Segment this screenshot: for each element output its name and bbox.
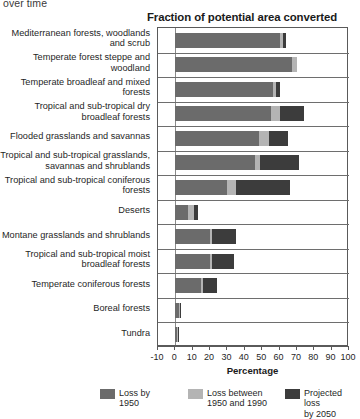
bar-segment[interactable]: [175, 155, 255, 170]
legend-label: Projected loss by 2050: [304, 388, 355, 419]
category-label: Tropical and sub-tropical coniferous for…: [0, 175, 150, 196]
caption-fragment: over time: [3, 0, 47, 9]
legend-item[interactable]: Projected loss by 2050: [285, 388, 355, 419]
legend-label: Loss by 1950: [119, 388, 150, 409]
chart-legend: Loss by 1950Loss between 1950 and 1990Pr…: [100, 388, 354, 412]
row-separator: [158, 322, 349, 323]
row-separator: [158, 249, 349, 250]
row-separator: [158, 200, 349, 201]
legend-item[interactable]: Loss between 1950 and 1990: [188, 388, 268, 409]
bar-segment[interactable]: [260, 155, 298, 170]
bar-segment[interactable]: [236, 180, 290, 195]
bar-group[interactable]: [158, 180, 349, 195]
x-axis-title: Percentage: [157, 365, 348, 376]
bar-segment[interactable]: [175, 229, 210, 244]
bar-group[interactable]: [158, 155, 349, 170]
category-label: Mediterranean forests, woodlands and scr…: [0, 28, 150, 49]
x-tick: [331, 346, 332, 350]
x-tick-label: 100: [335, 352, 360, 362]
x-tick: [226, 346, 227, 350]
legend-swatch: [285, 389, 300, 399]
row-separator: [158, 77, 349, 78]
x-tick: [174, 346, 175, 350]
x-axis-line: [157, 346, 348, 347]
bar-group[interactable]: [158, 82, 349, 97]
bar-segment[interactable]: [227, 180, 236, 195]
bar-segment[interactable]: [180, 303, 181, 318]
bar-segment[interactable]: [212, 229, 236, 244]
category-label: Tropical and sub-tropical grasslands, sa…: [0, 150, 150, 171]
legend-item[interactable]: Loss by 1950: [100, 388, 152, 409]
row-separator: [158, 298, 349, 299]
bar-segment[interactable]: [259, 131, 269, 146]
bar-segment[interactable]: [175, 180, 227, 195]
bar-segment[interactable]: [280, 106, 304, 121]
row-separator: [158, 53, 349, 54]
bar-segment[interactable]: [283, 33, 286, 48]
legend-swatch: [188, 389, 203, 399]
category-label: Tundra: [0, 328, 150, 338]
row-separator: [158, 126, 349, 127]
bar-group[interactable]: [158, 205, 349, 220]
bar-segment[interactable]: [212, 254, 235, 269]
bar-group[interactable]: [158, 278, 349, 293]
legend-swatch: [100, 389, 115, 399]
x-tick: [348, 346, 349, 350]
bar-segment[interactable]: [178, 327, 179, 342]
category-label: Temperate coniferous forests: [0, 279, 150, 289]
category-label: Temperate broadleaf and mixed forests: [0, 77, 150, 98]
bar-group[interactable]: [158, 131, 349, 146]
legend-label: Loss between 1950 and 1990: [207, 388, 267, 409]
category-label: Montane grasslands and shrublands: [0, 230, 150, 240]
bar-group[interactable]: [158, 229, 349, 244]
x-tick: [313, 346, 314, 350]
bar-group[interactable]: [158, 57, 349, 72]
bar-segment[interactable]: [175, 82, 272, 97]
x-tick: [261, 346, 262, 350]
chart-title: Fraction of potential area converted: [132, 11, 352, 23]
bar-segment[interactable]: [271, 106, 280, 121]
bar-segment[interactable]: [175, 131, 258, 146]
bar-segment[interactable]: [175, 205, 187, 220]
row-separator: [158, 102, 349, 103]
bar-group[interactable]: [158, 303, 349, 318]
bar-segment[interactable]: [276, 82, 279, 97]
bar-segment[interactable]: [175, 57, 291, 72]
row-separator: [158, 151, 349, 152]
category-label: Temperate forest steppe and woodland: [0, 52, 150, 73]
x-tick: [296, 346, 297, 350]
bar-segment[interactable]: [194, 205, 197, 220]
bar-group[interactable]: [158, 106, 349, 121]
row-separator: [158, 273, 349, 274]
x-tick: [279, 346, 280, 350]
category-label: Tropical and sub-tropical moist broadlea…: [0, 249, 150, 270]
bar-group[interactable]: [158, 254, 349, 269]
bar-segment[interactable]: [188, 205, 195, 220]
bar-segment[interactable]: [175, 33, 279, 48]
x-tick: [244, 346, 245, 350]
bar-segment[interactable]: [175, 254, 210, 269]
x-tick: [209, 346, 210, 350]
bar-segment[interactable]: [175, 106, 271, 121]
category-label: Boreal forests: [0, 303, 150, 313]
bar-segment[interactable]: [203, 278, 217, 293]
category-label: Flooded grasslands and savannas: [0, 131, 150, 141]
x-tick: [192, 346, 193, 350]
row-separator: [158, 224, 349, 225]
bar-segment[interactable]: [269, 131, 288, 146]
category-label: Tropical and sub-tropical dry broadleaf …: [0, 101, 150, 122]
row-separator: [158, 175, 349, 176]
bar-group[interactable]: [158, 33, 349, 48]
x-tick: [157, 346, 158, 350]
category-axis-labels: Mediterranean forests, woodlands and scr…: [0, 27, 154, 346]
plot-area: [157, 27, 348, 346]
bar-group[interactable]: [158, 327, 349, 342]
bar-segment[interactable]: [175, 278, 201, 293]
bar-segment[interactable]: [292, 57, 297, 72]
category-label: Deserts: [0, 205, 150, 215]
